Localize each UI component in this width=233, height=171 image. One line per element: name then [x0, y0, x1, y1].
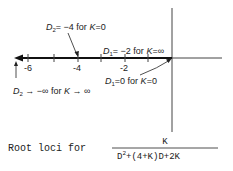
caption-prefix: Root loci for [8, 143, 86, 154]
annotation-d1-start: D1=0 for K=0 [105, 76, 157, 87]
annotation-d2-start: D2= −4 for K=0 [46, 22, 106, 33]
pointer-d2-start [68, 33, 77, 55]
root-locus-diagram: -6 -4 -2 D2= −4 for K=0 D1= −2 for K=∞ D… [0, 0, 233, 171]
arrow-left-icon [14, 55, 23, 62]
tick-label-neg2: -2 [120, 63, 128, 73]
pointer-d1-start [140, 60, 170, 75]
tick-label-neg6: -6 [24, 63, 32, 73]
arrowhead-icon [14, 61, 18, 66]
tick-label-neg4: -4 [73, 63, 81, 73]
caption-denominator: D2+(4+K)D+2K [117, 150, 181, 162]
annotation-d1-end: D1= −2 for K=∞ [103, 46, 164, 57]
caption-numerator: K [162, 137, 168, 147]
annotation-d2-end: D2 → −∞ for K → ∞ [13, 86, 90, 97]
